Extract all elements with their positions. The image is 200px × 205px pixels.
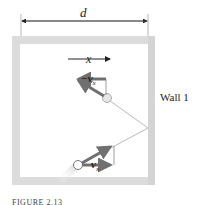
- molecule-incoming: [74, 161, 83, 170]
- negative-vx-subscript: x: [93, 79, 96, 87]
- negative-vx-label: −vx: [81, 72, 96, 87]
- vx-subscript: x: [96, 165, 99, 173]
- negative-vx-text: −v: [81, 72, 93, 84]
- dimension-label: d: [80, 5, 87, 21]
- wall-1-label: Wall 1: [160, 91, 189, 103]
- wall-1: [148, 36, 155, 185]
- figure-caption: FIGURE 2.13: [12, 198, 62, 205]
- vx-label: vx: [91, 158, 99, 173]
- x-axis-label: x: [86, 52, 91, 67]
